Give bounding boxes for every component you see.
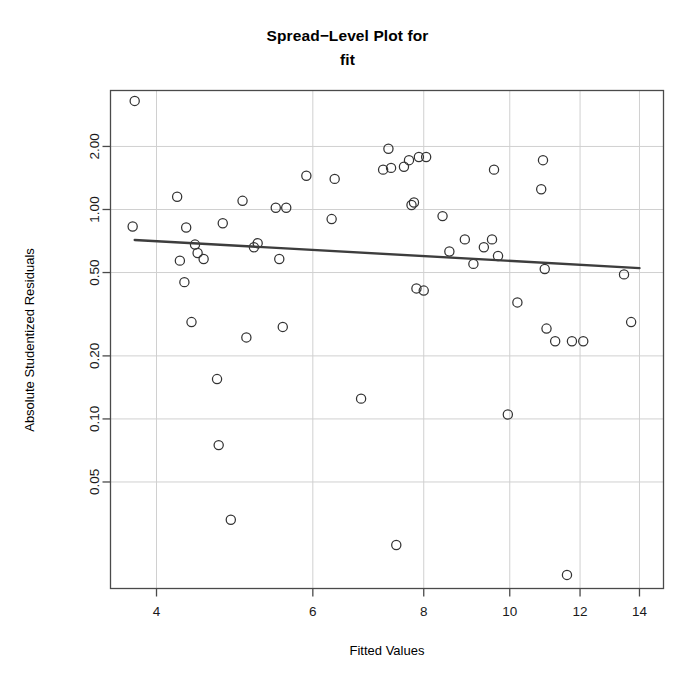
data-point bbox=[182, 223, 191, 232]
y-tick-label: 1.00 bbox=[87, 196, 102, 222]
axis-tick-labels: 4681012142.001.000.500.200.100.05 bbox=[87, 133, 647, 618]
data-point bbox=[538, 156, 547, 165]
y-tick-label: 0.05 bbox=[87, 469, 102, 495]
x-axis-label: Fitted Values bbox=[350, 643, 425, 658]
data-point bbox=[384, 144, 393, 153]
data-point bbox=[551, 337, 560, 346]
x-tick-label: 10 bbox=[502, 604, 517, 619]
data-point bbox=[479, 243, 488, 252]
data-point bbox=[218, 219, 227, 228]
data-point bbox=[445, 247, 454, 256]
y-axis-label: Absolute Studentized Residuals bbox=[22, 248, 37, 432]
x-tick-label: 6 bbox=[309, 604, 317, 619]
data-point bbox=[562, 570, 571, 579]
axis-ticks bbox=[103, 146, 640, 596]
data-point bbox=[487, 235, 496, 244]
data-point bbox=[356, 394, 365, 403]
data-point bbox=[460, 235, 469, 244]
data-point bbox=[180, 278, 189, 287]
data-point bbox=[128, 222, 137, 231]
y-tick-label: 0.20 bbox=[87, 343, 102, 369]
data-point bbox=[537, 185, 546, 194]
data-point bbox=[330, 174, 339, 183]
data-point bbox=[173, 192, 182, 201]
y-tick-label: 2.00 bbox=[87, 133, 102, 159]
data-point bbox=[489, 165, 498, 174]
data-point bbox=[542, 324, 551, 333]
trend-line bbox=[135, 240, 640, 268]
data-point bbox=[399, 162, 408, 171]
data-point bbox=[627, 317, 636, 326]
data-point bbox=[438, 212, 447, 221]
data-point bbox=[212, 374, 221, 383]
data-point bbox=[275, 254, 284, 263]
y-tick-label: 0.50 bbox=[87, 259, 102, 285]
data-point bbox=[409, 198, 418, 207]
data-point bbox=[503, 410, 512, 419]
data-point bbox=[404, 156, 413, 165]
data-point bbox=[469, 259, 478, 268]
x-tick-label: 4 bbox=[153, 604, 161, 619]
data-point bbox=[226, 515, 235, 524]
x-tick-label: 14 bbox=[632, 604, 648, 619]
data-point bbox=[407, 200, 416, 209]
data-point bbox=[271, 203, 280, 212]
x-tick-label: 8 bbox=[420, 604, 428, 619]
data-point bbox=[199, 254, 208, 263]
data-point bbox=[238, 196, 247, 205]
data-point bbox=[327, 214, 336, 223]
data-point bbox=[242, 333, 251, 342]
data-point bbox=[130, 96, 139, 105]
data-point bbox=[278, 322, 287, 331]
spread-level-plot: Spread−Level Plot for fit 4681012142.001… bbox=[0, 0, 695, 700]
regression-line bbox=[135, 240, 640, 268]
data-points bbox=[128, 96, 636, 579]
data-point bbox=[302, 171, 311, 180]
data-point bbox=[513, 298, 522, 307]
y-tick-label: 0.10 bbox=[87, 406, 102, 432]
data-point bbox=[282, 203, 291, 212]
x-tick-label: 12 bbox=[573, 604, 588, 619]
plot-canvas: 4681012142.001.000.500.200.100.05 Fitted… bbox=[0, 0, 695, 700]
data-point bbox=[187, 317, 196, 326]
data-point bbox=[214, 441, 223, 450]
data-point bbox=[175, 256, 184, 265]
data-point bbox=[619, 270, 628, 279]
data-point bbox=[392, 540, 401, 549]
data-point bbox=[567, 337, 576, 346]
